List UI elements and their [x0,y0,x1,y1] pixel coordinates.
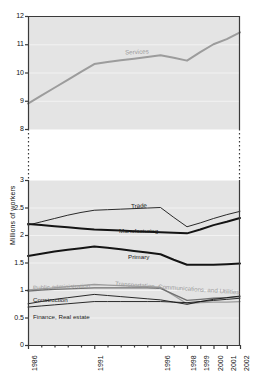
y-tick-12: 12 [2,12,24,19]
y-tick-8: 8 [2,125,24,132]
x-tick-1996: 1996 [164,355,171,371]
y-tick-10: 10 [2,69,24,76]
chart-canvas [0,0,271,379]
x-tick-2001: 2001 [230,355,237,371]
series-label-manufacturing: Manufacturing [119,227,158,234]
y-tick-11: 11 [2,40,24,47]
y-tick-3: 3 [2,176,24,183]
x-tick-1998: 1998 [190,355,197,371]
y-tick-0: 0 [2,341,24,348]
series-label-construction: Construction [33,296,68,303]
series-lines-upper [28,32,240,103]
x-tick-2002: 2002 [243,355,250,371]
series-label-primary: Primary [128,253,149,260]
series-label-trade: Trade [131,202,147,210]
chart-figure: 1211109832.521.510.50 198619911996199819… [0,0,271,379]
y-tick-9: 9 [2,97,24,104]
x-tick-1986: 1986 [31,355,38,371]
series-label-services: Services [125,47,149,55]
y-tick-1: 1 [2,286,24,293]
y-tick-1p5: 1.5 [2,259,24,266]
x-tick-1999: 1999 [203,355,210,371]
y-tick-0p5: 0.5 [2,314,24,321]
gridlines-upper [28,17,240,130]
x-tick-1991: 1991 [97,355,104,371]
y-axis-title: Millions of workers [9,186,16,245]
series-label-finance: Finance, Real estate [33,313,90,320]
x-tick-2000: 2000 [217,355,224,371]
